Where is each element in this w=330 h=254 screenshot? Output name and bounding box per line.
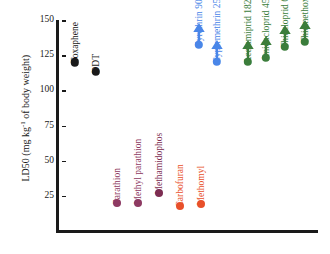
data-point-label: DDT xyxy=(91,54,101,74)
data-point-label: Imidacloprid 450 xyxy=(261,0,271,59)
data-point-label: Methamidophos xyxy=(154,133,164,195)
data-point-label: Acetamiprid 182 xyxy=(243,0,253,63)
data-point-label: Carbofuran xyxy=(175,164,185,207)
plot-area: ToxapheneDDTParathionMethyl parathionMet… xyxy=(0,0,330,254)
data-point-label: Pyrethrin 900 xyxy=(194,0,204,46)
chart-canvas: LD50 (mg kg-1 of body weight) 1501251007… xyxy=(0,0,330,254)
data-point-label: Cypermethrin 250 xyxy=(212,0,222,63)
data-point-label: Parathion xyxy=(112,168,122,204)
data-point-label: Thiacloprid 640 xyxy=(280,0,290,48)
data-point-label: Thiamethoxam 1563 xyxy=(300,0,310,43)
data-point-label: Methomyl xyxy=(196,166,206,206)
data-point-label: Toxaphene xyxy=(70,22,80,64)
data-point-label: Methyl parathion xyxy=(133,139,143,205)
